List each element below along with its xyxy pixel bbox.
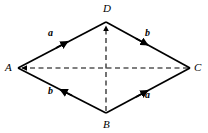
rhombus-diagram-svg <box>0 0 208 133</box>
vector-label-b-on-ab: b <box>48 86 53 96</box>
vertex-label-c: C <box>194 62 201 73</box>
vertex-label-b: B <box>103 119 110 130</box>
vector-label-a-on-bc: a <box>145 90 150 100</box>
vector-label-b-on-dc: b <box>145 28 150 38</box>
vector-label-a-on-ad: a <box>48 28 53 38</box>
vertex-label-a: A <box>5 62 12 73</box>
side-DC-arrowhead <box>136 39 148 46</box>
geometry-figure: A B C D a b b a <box>0 0 208 133</box>
side-AB-arrowhead <box>60 90 72 96</box>
vertex-label-d: D <box>103 3 111 14</box>
side-AD-arrowhead <box>56 42 68 49</box>
